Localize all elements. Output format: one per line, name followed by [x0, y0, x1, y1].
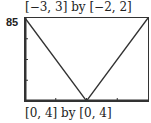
v-shaped-graph: [24, 17, 149, 102]
top-window-caption: [−3, 3] by [−2, 2]: [25, 0, 132, 14]
graph-frame: [25, 18, 149, 102]
calculator-graph-window: [24, 17, 149, 102]
figure-number: 85: [6, 16, 18, 28]
bottom-window-caption: [0, 4] by [0, 4]: [25, 106, 112, 120]
